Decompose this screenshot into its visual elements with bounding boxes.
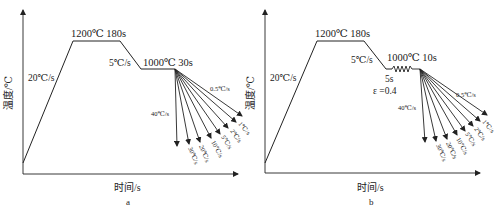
rate-label-30: 30℃/s xyxy=(187,146,200,166)
rate-label-40: 40℃/s xyxy=(398,104,417,111)
y-axis-label: 温度/℃ xyxy=(244,76,256,110)
deformation-time-label: 5s xyxy=(385,74,394,84)
rate-label-0.5: 0.5℃/s xyxy=(210,85,230,92)
figure-caption: b xyxy=(369,197,374,207)
process-diagram: 1200℃ 180s 5℃/s 1000℃ 30s 20℃/s 40℃/s 0.… xyxy=(0,0,500,208)
heating-rate-label: 20℃/s xyxy=(28,73,55,83)
figure-b: 1200℃ 180s 5℃/s 1000℃ 10s 5s ε =0.4 20℃/… xyxy=(244,10,496,207)
soak-label: 1200℃ 180s xyxy=(315,28,370,39)
rate-label-0.5: 0.5℃/s xyxy=(456,91,476,98)
y-axis-label: 温度/℃ xyxy=(2,76,14,110)
cool-rate-label: 5℃/s xyxy=(109,58,131,68)
strain-label: ε =0.4 xyxy=(373,86,397,96)
hold-label: 1000℃ 30s xyxy=(143,57,193,68)
soak-label: 1200℃ 180s xyxy=(71,28,126,39)
x-axis-label: 时间/s xyxy=(357,181,384,193)
rate-label-5: 5℃/s xyxy=(220,134,234,151)
cool-rate-label: 5℃/s xyxy=(351,55,373,65)
temperature-path xyxy=(265,41,392,163)
deformation-zigzag xyxy=(392,66,420,72)
figure-a: 1200℃ 180s 5℃/s 1000℃ 30s 20℃/s 40℃/s 0.… xyxy=(2,10,252,207)
figure-caption: a xyxy=(126,197,130,207)
heating-rate-label: 20℃/s xyxy=(270,73,297,83)
rate-label-40: 40℃/s xyxy=(151,110,170,117)
hold-label: 1000℃ 10s xyxy=(387,52,437,63)
rate-label-10: 10℃/s xyxy=(210,139,225,159)
x-axis-label: 时间/s xyxy=(114,181,141,193)
